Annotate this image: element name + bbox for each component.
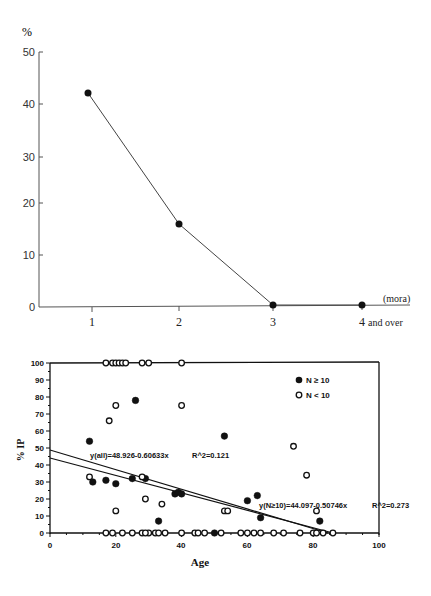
data-point-n-lt-10	[179, 530, 185, 536]
y-tick: 80	[35, 393, 44, 402]
r2-all: R^2=0.121	[192, 451, 229, 460]
data-point-n-lt-10	[195, 530, 201, 536]
data-point-n-lt-10	[106, 418, 112, 424]
data-point-n-lt-10	[179, 403, 185, 409]
data-point-n-lt-10	[120, 530, 126, 536]
y-tick: 0	[40, 529, 45, 538]
data-point-n-lt-10	[143, 496, 149, 502]
y-tick-40: 40	[23, 98, 35, 110]
data-point-n-lt-10	[159, 501, 165, 507]
data-point-n-ge-10	[178, 491, 185, 498]
y-tick-0: 0	[29, 301, 35, 313]
data-point-n-lt-10	[225, 508, 231, 514]
y-tick: 10	[35, 512, 44, 521]
x-tick: 0	[48, 541, 53, 550]
data-point-n-lt-10	[297, 530, 303, 536]
data-point-n-lt-10	[139, 474, 145, 480]
x-tick: 60	[243, 541, 252, 550]
data-point-n-ge-10	[86, 438, 93, 445]
data-point-n-ge-10	[317, 518, 324, 525]
r2-n10: R^2=0.273	[372, 501, 409, 510]
data-point-n-ge-10	[244, 497, 251, 504]
data-point-n-ge-10	[221, 433, 228, 440]
x-tick: 80	[309, 541, 318, 550]
x-tick: 20	[112, 541, 121, 550]
data-point-n-lt-10	[218, 530, 224, 536]
x-tick-4: 4	[359, 315, 365, 329]
data-point-n-lt-10	[130, 530, 136, 536]
point-2	[176, 221, 183, 228]
data-point-n-lt-10	[103, 530, 109, 536]
data-point-n-lt-10	[258, 530, 264, 536]
bottom-y-tick-labels: 100 90 80 70 60 50 40 30 20 10 0	[31, 359, 45, 538]
x-tick-suffix: and over	[368, 317, 403, 328]
data-point-n-ge-10	[132, 397, 139, 404]
data-point-n-lt-10	[123, 360, 129, 366]
point-4	[359, 302, 366, 309]
y-tick: 30	[35, 478, 44, 487]
x-tick-2: 2	[176, 315, 182, 329]
y-tick: 40	[35, 461, 44, 470]
legend-label-open: N < 10	[306, 391, 330, 400]
data-point-n-lt-10	[251, 530, 257, 536]
y-tick: 20	[35, 495, 44, 504]
data-point-n-lt-10	[139, 360, 145, 366]
data-point-n-lt-10	[110, 530, 116, 536]
y-tick: 70	[35, 410, 44, 419]
data-point-n-ge-10	[103, 477, 110, 484]
y-tick: 90	[35, 376, 44, 385]
data-point-n-lt-10	[162, 530, 168, 536]
data-point-n-lt-10	[146, 360, 152, 366]
data-point-n-ge-10	[254, 492, 261, 499]
top-x-tick-labels: 1 2 3 4	[89, 315, 365, 329]
data-point-n-lt-10	[314, 530, 320, 536]
bottom-axis-ticks	[46, 363, 379, 537]
legend: N ≥ 10 N < 10	[296, 376, 331, 400]
y-tick: 50	[35, 444, 44, 453]
y-tick-10: 10	[23, 249, 35, 261]
y-tick-50: 50	[23, 46, 35, 58]
x-tick: 40	[177, 541, 186, 550]
x-axis-label: Age	[191, 556, 209, 568]
top-y-ticks	[39, 52, 43, 255]
top-y-tick-labels: 50 40 30 20 10 0	[23, 46, 35, 313]
point-1	[85, 90, 92, 97]
data-point-n-lt-10	[113, 403, 119, 409]
frame-top	[50, 362, 379, 363]
data-point-n-lt-10	[113, 508, 119, 514]
top-y-unit: %	[22, 25, 32, 39]
data-point-n-ge-10	[129, 475, 136, 482]
top-line-chart: % 50 40 30 20 10 0 1 2	[22, 25, 410, 329]
equation-all: y(all)=48.926-0.60633x	[90, 451, 169, 460]
data-point-n-lt-10	[271, 530, 277, 536]
point-3	[270, 302, 277, 309]
data-point-n-ge-10	[155, 518, 162, 525]
regression-line-n10	[50, 458, 333, 533]
x-tick: 100	[372, 541, 386, 550]
data-point-n-ge-10	[113, 480, 120, 487]
data-point-n-lt-10	[281, 530, 287, 536]
data-point-n-lt-10	[320, 530, 326, 536]
data-point-n-lt-10	[202, 530, 208, 536]
legend-label-filled: N ≥ 10	[306, 376, 330, 385]
legend-open-marker	[296, 392, 302, 398]
figure: % 50 40 30 20 10 0 1 2	[0, 0, 431, 596]
legend-filled-marker	[296, 377, 303, 384]
bottom-x-tick-labels: 0 20 40 60 80 100	[48, 541, 386, 550]
top-data-points	[85, 90, 366, 309]
data-point-n-lt-10	[245, 530, 251, 536]
top-data-line	[88, 93, 362, 305]
data-point-n-lt-10	[87, 474, 93, 480]
equation-n10: y(N≥10)=44.097-0.50746x	[259, 501, 348, 510]
data-point-n-lt-10	[304, 472, 310, 478]
data-point-n-lt-10	[143, 530, 149, 536]
data-point-n-lt-10	[291, 444, 297, 450]
data-point-n-lt-10	[238, 530, 244, 536]
data-point-n-ge-10	[257, 514, 264, 521]
x-tick-3: 3	[270, 315, 276, 329]
data-point-n-lt-10	[330, 530, 336, 536]
y-tick-30: 30	[23, 151, 35, 163]
y-tick: 60	[35, 427, 44, 436]
y-axis-label: % IP	[15, 439, 26, 462]
data-point-n-ge-10	[211, 530, 218, 537]
